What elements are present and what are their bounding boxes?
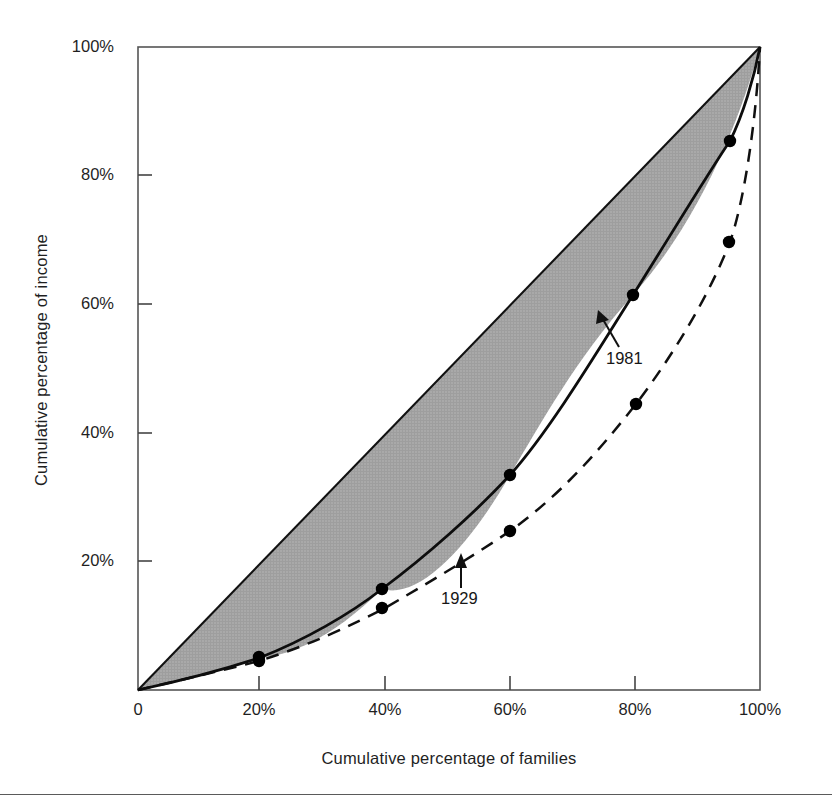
x-tick-label-60: 60%	[467, 700, 553, 719]
lorenz-curve-figure: 100% 80% 60% 40% 20% 0 20% 40% 60% 80% 1…	[0, 0, 832, 807]
series-label-1929: 1929	[441, 589, 478, 608]
y-axis-title: Cumulative percentage of income	[32, 40, 56, 680]
x-tick-label-100: 100%	[717, 700, 803, 719]
series-label-1981: 1981	[606, 349, 643, 368]
x-tick-label-80: 80%	[592, 700, 678, 719]
x-axis-ticks	[259, 676, 635, 690]
x-tick-label-0: 0	[95, 700, 181, 719]
x-tick-label-20: 20%	[216, 700, 302, 719]
bottom-divider	[0, 794, 832, 795]
x-axis-title: Cumulative percentage of families	[138, 749, 760, 768]
lorenz-curve-plot	[0, 0, 832, 807]
annotation-arrow-1929	[455, 553, 467, 588]
x-tick-label-40: 40%	[342, 700, 428, 719]
y-axis-ticks	[138, 175, 152, 561]
